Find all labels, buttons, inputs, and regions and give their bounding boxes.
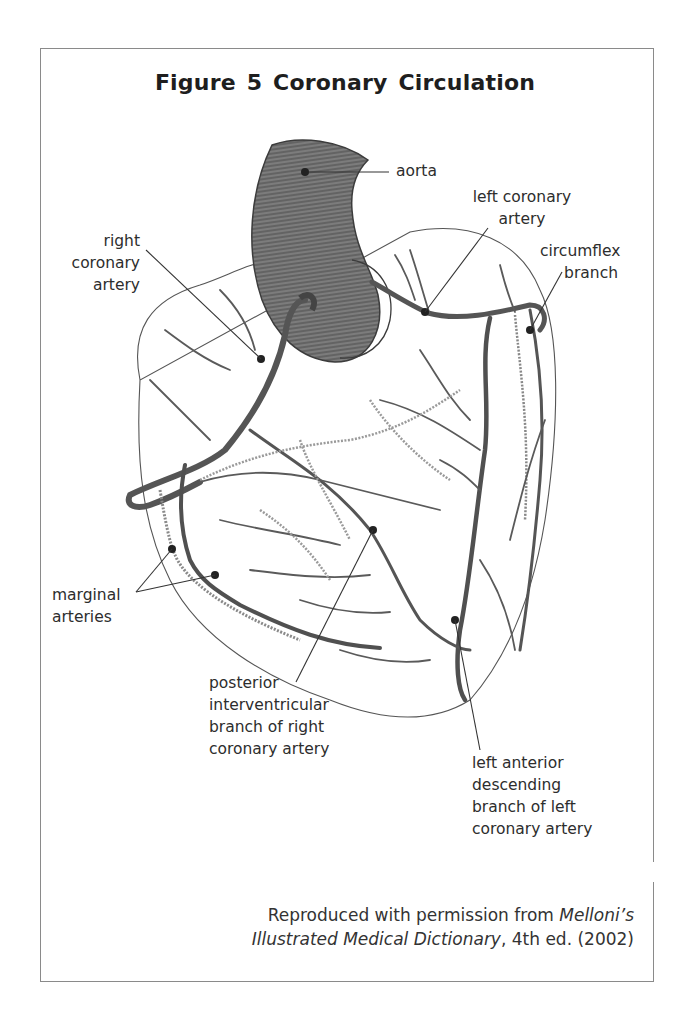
aorta-shape	[252, 140, 380, 362]
label-left-anterior-descending-branch: left anterior descending branch of left …	[472, 752, 592, 840]
label-aorta: aorta	[396, 160, 437, 182]
label-left-coronary-artery: left coronary artery	[462, 186, 582, 230]
coronary-heart-illustration	[0, 0, 690, 1026]
label-marginal-arteries: marginal arteries	[52, 584, 120, 628]
left-coronary-vessel	[372, 282, 544, 330]
label-right-coronary-artery: right coronary artery	[60, 230, 140, 296]
lad-vessel	[458, 318, 490, 700]
figure-credit: Reproduced with permission from Melloni’…	[252, 903, 634, 951]
label-posterior-interventricular-branch: posterior interventricular branch of rig…	[209, 672, 329, 760]
label-circumflex-branch: circumflex branch	[540, 240, 618, 284]
